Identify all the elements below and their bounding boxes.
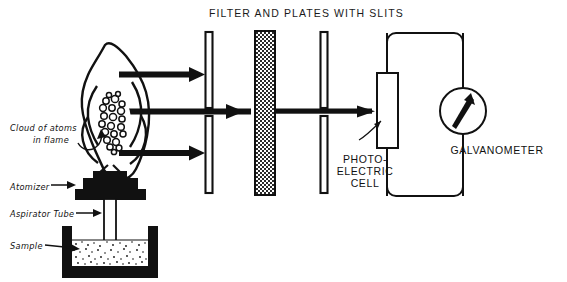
photocell-label-line2: ELECTRIC	[337, 165, 394, 177]
plate-upper-right	[321, 32, 328, 108]
plate-lower-left	[206, 116, 213, 193]
aspirator-leader	[76, 209, 102, 217]
cloud-of-atoms	[97, 92, 131, 155]
cloud-label-line2: in flame	[33, 135, 69, 145]
diagram-canvas: FILTER AND PLATES WITH SLITS	[0, 0, 567, 282]
galvanometer	[440, 88, 486, 134]
sample-label: Sample	[10, 241, 43, 251]
beam-lower	[119, 146, 205, 161]
atomizer-leader	[51, 181, 76, 189]
diagram-title: FILTER AND PLATES WITH SLITS	[209, 7, 404, 19]
cloud-label-line1: Cloud of atoms	[10, 123, 77, 133]
plate-lower-right	[321, 116, 328, 193]
beam-middle	[104, 104, 375, 119]
flame-photometer-diagram: FILTER AND PLATES WITH SLITS	[0, 0, 567, 282]
plate-upper-left	[206, 32, 213, 108]
photocell-label-line3: CELL	[351, 177, 380, 189]
beam-upper	[119, 67, 205, 82]
atomizer-label: Atomizer	[9, 182, 50, 192]
photocell-label-line1: PHOTO-	[343, 153, 387, 165]
galvanometer-label: GALVANOMETER	[450, 144, 543, 156]
photo-electric-cell	[377, 73, 398, 148]
aspirator-label: Aspirator Tube	[9, 209, 74, 219]
optical-filter	[255, 31, 275, 195]
